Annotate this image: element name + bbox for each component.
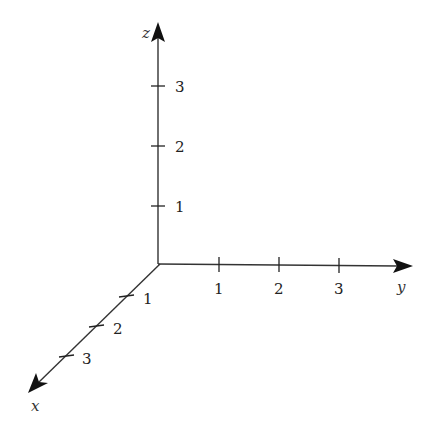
y-tick-label-3: 3: [334, 280, 344, 298]
z-tick-label-2: 2: [175, 138, 185, 156]
y-axis-label: y: [396, 278, 406, 296]
z-tick-label-3: 3: [175, 78, 185, 96]
x-axis-label: x: [31, 397, 40, 415]
y-axis-line: [158, 264, 398, 266]
z-tick-label-1: 1: [175, 198, 185, 216]
x-tick-label-1: 1: [143, 290, 153, 308]
y-tick-label-1: 1: [214, 280, 224, 298]
x-tick-label-3: 3: [82, 350, 92, 368]
y-tick-label-2: 2: [274, 280, 284, 298]
x-axis: x 1 2 3: [28, 264, 160, 415]
z-axis-label: z: [141, 24, 150, 42]
x-axis-line: [38, 264, 160, 383]
coordinate-axes-diagram: z 1 2 3 y 1 2 3 x 1 2 3: [0, 0, 437, 427]
z-axis: z 1 2 3: [141, 22, 185, 264]
x-tick-label-2: 2: [113, 320, 123, 338]
y-axis: y 1 2 3: [158, 257, 413, 298]
